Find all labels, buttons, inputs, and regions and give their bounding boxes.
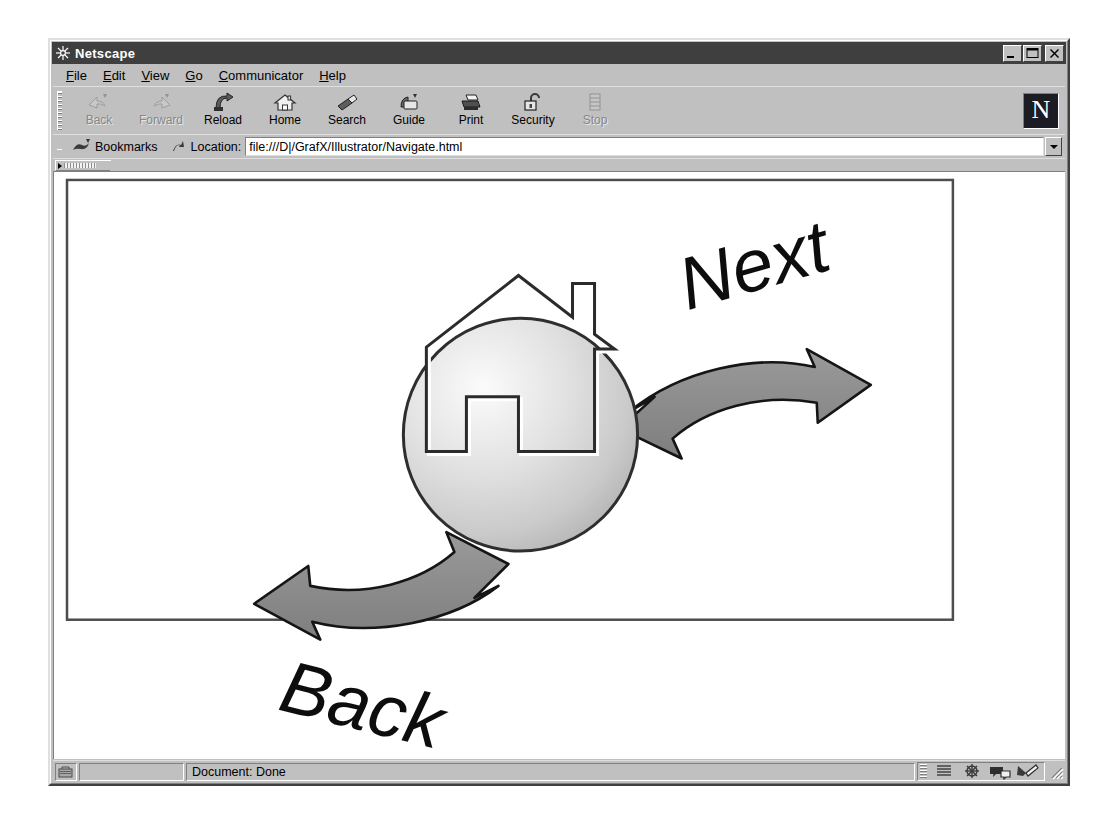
guide-book-icon: [396, 91, 422, 113]
netscape-ship-wheel-icon: [55, 45, 71, 61]
title-bar[interactable]: Netscape: [52, 42, 1066, 64]
menu-item-communicator[interactable]: Communicator: [211, 66, 312, 85]
reload-button-label: Reload: [204, 114, 242, 127]
page-proxy-icon: [170, 138, 187, 155]
back-button[interactable]: Back: [68, 89, 130, 131]
navigator-icon[interactable]: [931, 763, 957, 780]
composer-icon[interactable]: [1015, 763, 1041, 780]
minimize-button[interactable]: [1003, 45, 1022, 62]
forward-button[interactable]: Forward: [130, 89, 192, 131]
netscape-browser-window: Netscape File Edit View Go Com: [48, 38, 1070, 786]
location-bar: Bookmarks Location: file:///D|/GrafX/Ill…: [53, 134, 1065, 158]
stop-button-label: Stop: [583, 114, 608, 127]
reload-button[interactable]: Reload: [192, 89, 254, 131]
toolbar-drag-grip[interactable]: [54, 89, 65, 132]
status-bar: Document: Done: [53, 760, 1065, 782]
back-banner-arrow: [254, 532, 508, 639]
menu-bar: File Edit View Go Communicator Help: [53, 65, 1065, 85]
security-button[interactable]: Security: [502, 89, 564, 131]
location-label: Location:: [191, 140, 242, 154]
next-label: Next: [669, 203, 842, 325]
grip-dots: [64, 163, 96, 168]
toolbar-button-group: Back Forward Reload: [68, 87, 1023, 134]
personal-toolbar: [53, 158, 1065, 171]
guide-button[interactable]: Guide: [378, 89, 440, 131]
url-input[interactable]: file:///D|/GrafX/Illustrator/Navigate.ht…: [245, 137, 1044, 156]
maximize-button[interactable]: [1023, 45, 1042, 62]
netscape-logo-button[interactable]: N: [1023, 87, 1065, 134]
close-button[interactable]: [1045, 45, 1064, 62]
navigation-home-graphic: Next Back: [54, 172, 1065, 759]
print-button-label: Print: [459, 114, 484, 127]
print-button[interactable]: Print: [440, 89, 502, 131]
bookmark-flag-icon: [70, 138, 92, 155]
home-button-label: Home: [269, 114, 301, 127]
menu-item-edit[interactable]: Edit: [95, 66, 133, 85]
search-button[interactable]: Search: [316, 89, 378, 131]
location-label-button[interactable]: Location:: [164, 138, 246, 155]
mailbox-icon[interactable]: [959, 763, 985, 780]
printer-icon: [458, 91, 484, 113]
back-button-label: Back: [86, 114, 113, 127]
component-bar: [917, 762, 1045, 781]
personal-toolbar-expand-handle[interactable]: [55, 160, 111, 171]
url-dropdown-button[interactable]: [1045, 137, 1062, 156]
padlock-open-icon: [520, 91, 546, 113]
stop-icon: [582, 91, 608, 113]
bookmarks-label: Bookmarks: [95, 140, 158, 154]
forward-button-label: Forward: [139, 114, 183, 127]
security-button-label: Security: [511, 114, 554, 127]
bookmarks-button[interactable]: Bookmarks: [68, 138, 164, 155]
stop-button[interactable]: Stop: [564, 89, 626, 131]
menu-item-view[interactable]: View: [133, 66, 177, 85]
status-message: Document: Done: [186, 763, 915, 781]
discussions-icon[interactable]: [987, 763, 1013, 780]
guide-button-label: Guide: [393, 114, 425, 127]
back-arrow-icon: [86, 91, 112, 113]
search-button-label: Search: [328, 114, 366, 127]
next-label-text: Next: [669, 203, 842, 325]
menu-item-help[interactable]: Help: [311, 66, 354, 85]
page-content-area: Next Back: [53, 171, 1065, 759]
navigation-toolbar: Back Forward Reload: [53, 86, 1065, 134]
embossed-house-in-circle: [403, 275, 637, 551]
security-lock-icon[interactable]: [55, 763, 77, 781]
home-button[interactable]: Home: [254, 89, 316, 131]
chevron-right-icon: [58, 163, 62, 169]
component-bar-grip[interactable]: [920, 764, 927, 779]
home-house-icon: [272, 91, 298, 113]
menu-item-file[interactable]: File: [58, 66, 95, 85]
window-resize-grip[interactable]: [1048, 764, 1064, 780]
netscape-n-logo: N: [1023, 93, 1059, 129]
progress-bar: [79, 763, 184, 781]
reload-icon: [210, 91, 236, 113]
back-label: Back: [273, 645, 457, 759]
forward-arrow-icon: [148, 91, 174, 113]
window-title: Netscape: [75, 46, 1002, 61]
next-banner-arrow: [620, 349, 871, 458]
search-flashlight-icon: [334, 91, 360, 113]
menu-item-go[interactable]: Go: [177, 66, 210, 85]
back-label-text: Back: [273, 645, 457, 759]
